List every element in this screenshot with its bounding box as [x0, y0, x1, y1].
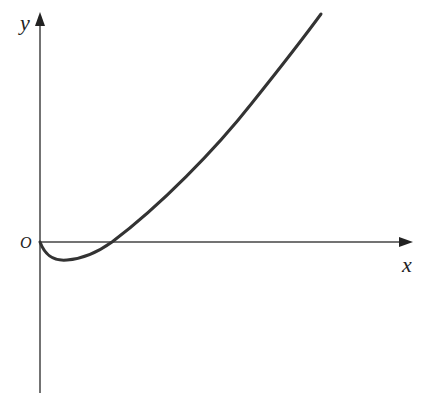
function-curve — [40, 14, 321, 260]
x-axis-label: x — [401, 252, 412, 277]
origin-label: O — [20, 234, 32, 251]
graph-canvas: y x O — [0, 0, 422, 399]
y-axis-arrow-icon — [35, 12, 45, 26]
y-axis-label: y — [18, 10, 30, 35]
x-axis-arrow-icon — [399, 237, 413, 247]
